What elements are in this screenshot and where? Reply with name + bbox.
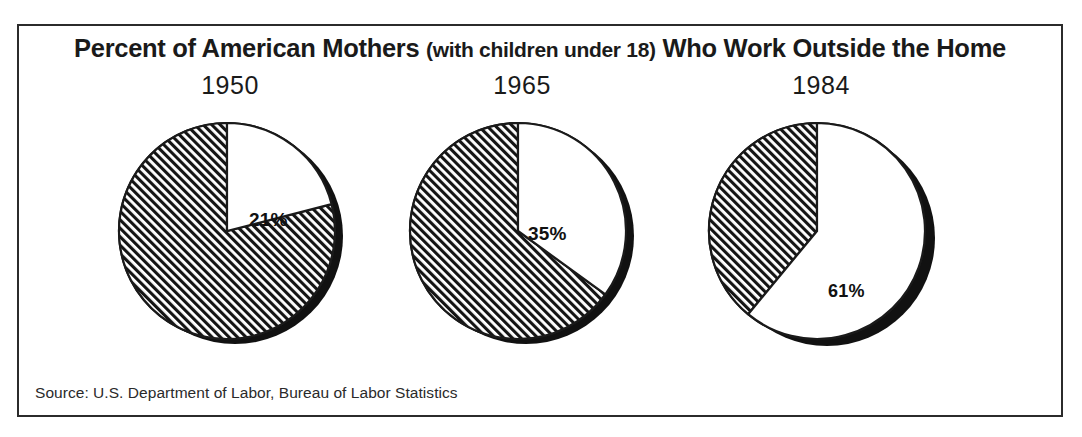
pie-face [709, 123, 925, 339]
pie-value-label-1965: 35% [528, 223, 567, 245]
source-note: Source: U.S. Department of Labor, Bureau… [35, 384, 458, 402]
pie-panel-1965: 35% [396, 105, 646, 355]
chart-title-parenthetical: (with children under 18) [426, 38, 656, 61]
pie-chart-figure: Percent of American Mothers (with childr… [0, 0, 1082, 437]
pie-face [410, 123, 626, 339]
pie-chart-1984-svg [695, 105, 945, 355]
chart-title-part-2: Who Work Outside the Home [656, 34, 1006, 62]
pie-panel-1984: 61% [695, 105, 945, 355]
panel-year-label-1984: 1984 [741, 71, 901, 100]
chart-title-part-1: Percent of American Mothers [74, 34, 426, 62]
panel-year-label-1950: 1950 [150, 71, 310, 100]
pie-chart-1965-svg [396, 105, 646, 355]
pie-panel-1950: 21% [105, 105, 355, 355]
pie-face [119, 123, 335, 339]
panel-year-label-1965: 1965 [442, 71, 602, 100]
pie-value-label-1984: 61% [828, 281, 865, 302]
pie-chart-1950-svg [105, 105, 355, 355]
chart-frame: Percent of American Mothers (with childr… [17, 24, 1063, 417]
pie-value-label-1950: 21% [249, 209, 288, 231]
chart-title: Percent of American Mothers (with childr… [19, 34, 1061, 63]
